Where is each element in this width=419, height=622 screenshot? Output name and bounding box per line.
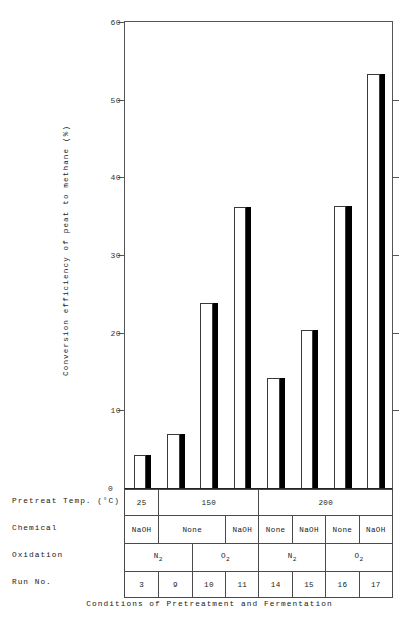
table-cell-run-no: 3 <box>125 572 159 598</box>
bar-shadow <box>213 303 218 488</box>
table-row-chemical: NaOHNoneNaOHNoneNaOHNoneNaOH <box>125 516 393 544</box>
bar-shadow <box>246 207 251 488</box>
bar-run-10 <box>200 303 218 488</box>
bar-shadow <box>180 434 185 488</box>
bar-face <box>301 330 314 488</box>
y-axis-tick-label: 40 <box>111 173 121 182</box>
y-axis-tick-label: 10 <box>111 406 121 415</box>
y-axis-tick-mark-right <box>392 255 399 256</box>
plot-frame: 102030405060 <box>124 21 393 489</box>
table-cell-oxidation: N2 <box>259 544 326 572</box>
table-cell-chemical: None <box>159 516 226 544</box>
table-cell-pretreat-temp: 25 <box>125 490 159 516</box>
table-cell-run-no: 11 <box>226 572 259 598</box>
table-row-run-no: 39101114151617 <box>125 572 393 598</box>
oxidation-gas-subscript: 2 <box>293 556 297 563</box>
y-axis-tick-label: 20 <box>111 328 121 337</box>
bar-run-11 <box>234 207 252 488</box>
table-cell-chemical: None <box>259 516 292 544</box>
conditions-table: 25150200 NaOHNoneNaOHNoneNaOHNoneNaOH N2… <box>124 489 393 598</box>
row-label-run-no: Run No. <box>12 578 52 586</box>
y-axis-tick-mark-right <box>392 100 399 101</box>
bar-face <box>134 455 147 488</box>
bar-face <box>167 434 180 488</box>
bar-run-15 <box>301 330 319 488</box>
bar-face <box>234 207 247 488</box>
y-axis-tick-label: 30 <box>111 251 121 260</box>
y-axis-tick-label: 60 <box>111 18 121 27</box>
table-cell-run-no: 15 <box>292 572 325 598</box>
oxidation-gas-subscript: 2 <box>360 556 364 563</box>
bar-face <box>267 378 280 488</box>
oxidation-gas-subscript: 2 <box>226 556 230 563</box>
bar-face <box>367 74 380 488</box>
table-cell-chemical: None <box>326 516 359 544</box>
bar-shadow <box>146 455 151 488</box>
bar-run-16 <box>334 206 352 488</box>
y-axis-tick-mark-right <box>392 410 399 411</box>
bar-shadow <box>280 378 285 488</box>
table-cell-pretreat-temp: 150 <box>159 490 259 516</box>
bar-series <box>125 22 392 488</box>
table-cell-run-no: 14 <box>259 572 292 598</box>
row-label-chemical: Chemical <box>12 524 57 532</box>
oxidation-gas-subscript: 2 <box>159 556 163 563</box>
table-cell-chemical: NaOH <box>226 516 259 544</box>
bar-face <box>334 206 347 488</box>
table-cell-oxidation: O2 <box>192 544 259 572</box>
y-axis-tick-label: 50 <box>111 95 121 104</box>
bar-shadow <box>380 74 385 488</box>
bar-shadow <box>313 330 318 488</box>
table-cell-run-no: 9 <box>159 572 192 598</box>
y-axis-tick-mark-right <box>392 177 399 178</box>
table-cell-oxidation: N2 <box>125 544 193 572</box>
y-axis-title: Conversion efficiency of peat to methane… <box>62 116 70 376</box>
table-row-oxidation: N2O2N2O2 <box>125 544 393 572</box>
table-cell-run-no: 17 <box>359 572 392 598</box>
table-cell-chemical: NaOH <box>292 516 325 544</box>
y-axis-tick-label-zero: 0 <box>108 484 113 493</box>
bar-run-14 <box>267 378 285 488</box>
bar-run-9 <box>167 434 185 488</box>
chart-caption: Conditions of Pretreatment and Fermentat… <box>0 600 419 608</box>
bar-shadow <box>346 206 351 488</box>
table-cell-pretreat-temp: 200 <box>259 490 393 516</box>
table-cell-run-no: 10 <box>192 572 225 598</box>
row-label-oxidation: Oxidation <box>12 551 63 559</box>
bar-face <box>200 303 213 488</box>
table-cell-run-no: 16 <box>326 572 359 598</box>
bar-run-3 <box>134 455 152 488</box>
y-axis-tick-mark-right <box>392 333 399 334</box>
table-row-pretreat-temp: 25150200 <box>125 490 393 516</box>
bar-run-17 <box>367 74 385 488</box>
table-cell-chemical: NaOH <box>125 516 159 544</box>
row-label-pretreat-temp: Pretreat Temp. (°C) <box>12 497 120 505</box>
table-cell-chemical: NaOH <box>359 516 392 544</box>
table-cell-oxidation: O2 <box>326 544 393 572</box>
chart-page: Conversion efficiency of peat to methane… <box>0 0 419 622</box>
